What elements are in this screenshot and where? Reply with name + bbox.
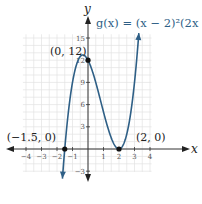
curve-right-arrow (135, 33, 141, 40)
y-tick-label: 15 (76, 35, 85, 43)
curve-left-arrow (60, 171, 66, 178)
x-axis-label: x (191, 142, 198, 156)
chart-title: g(x) = (x − 2)²(2x + 3) (96, 16, 202, 30)
y-tick-label: 3 (81, 123, 85, 131)
x-tick-label: 1 (101, 153, 105, 161)
points: (0, 12)(−1.5, 0)(2, 0) (7, 45, 166, 151)
y-axis-label: y (83, 2, 91, 16)
ticks: −4−3−2−11234−33691215 (21, 35, 153, 176)
y-axis-top-arrow (85, 16, 91, 24)
x-tick-label: 2 (117, 153, 121, 161)
point-marker (116, 146, 121, 151)
y-tick-label: 9 (81, 79, 85, 87)
x-tick-label: −1 (67, 153, 77, 161)
point-label: (2, 0) (136, 131, 166, 144)
point-marker (62, 146, 67, 151)
y-tick-label: 6 (81, 101, 86, 109)
point-label: (−1.5, 0) (7, 131, 56, 144)
y-axis-bottom-arrow (85, 174, 91, 182)
point-label: (0, 12) (50, 45, 87, 58)
y-tick-label: −3 (75, 168, 85, 176)
x-tick-label: −4 (21, 153, 32, 161)
x-tick-label: −2 (52, 153, 62, 161)
x-tick-label: 4 (148, 153, 153, 161)
x-tick-label: −3 (36, 153, 46, 161)
point-marker (85, 58, 90, 63)
x-axis-right-arrow (182, 146, 190, 152)
x-tick-label: 3 (132, 153, 136, 161)
function-graph: −4−3−2−11234−33691215 (0, 12)(−1.5, 0)(2… (0, 0, 202, 204)
x-axis-left-arrow (6, 146, 14, 152)
